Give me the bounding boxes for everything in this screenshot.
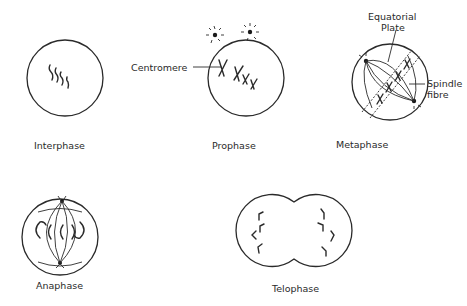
- interphase-membrane: [27, 40, 103, 116]
- centromere-label: Centromere: [131, 62, 188, 73]
- interphase-chromatin: [49, 65, 68, 88]
- anaphase-cell: Anaphase: [22, 196, 98, 291]
- telophase-label: Telophase: [271, 283, 319, 294]
- spindle-label-line2: fibre: [427, 89, 449, 100]
- anaphase-chromosomes: [36, 222, 84, 239]
- equatorial-pointer-line: [388, 30, 396, 62]
- telophase-chromosomes-left: [252, 212, 264, 253]
- anaphase-label: Anaphase: [36, 280, 83, 291]
- telophase-cell: Telophase: [236, 195, 352, 295]
- equatorial-label-line1: Equatorial: [368, 11, 416, 22]
- cell-division-diagram: Interphase Centromere Prophase: [0, 0, 467, 306]
- prophase-chromosomes: [219, 60, 257, 89]
- prophase-cell: Centromere Prophase: [131, 23, 284, 151]
- centriole-icon: [206, 26, 224, 43]
- metaphase-label: Metaphase: [336, 139, 388, 150]
- centriole-icon: [241, 23, 259, 41]
- metaphase-cell: Equatorial Plate Spindle fibre Metaphase: [336, 11, 462, 150]
- interphase-label: Interphase: [34, 140, 85, 151]
- telophase-chromosomes-right: [318, 209, 334, 256]
- spindle-label-line1: Spindle: [427, 78, 462, 89]
- prophase-label: Prophase: [212, 140, 256, 151]
- interphase-cell: Interphase: [27, 40, 103, 151]
- telophase-membrane: [236, 195, 352, 267]
- equatorial-label-line2: Plate: [381, 22, 405, 33]
